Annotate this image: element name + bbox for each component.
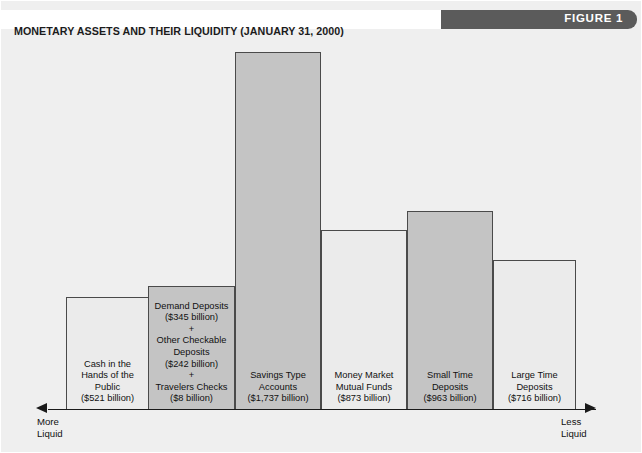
arrow-right-icon [585,403,596,413]
bar-label: Large Time Deposits ($716 billion) [505,370,564,409]
axis-label-more-liquid: More Liquid [37,416,63,439]
bar-label: Cash in the Hands of the Public ($521 bi… [78,359,137,409]
banner-bar [441,10,637,29]
axis-label-less-liquid: Less Liquid [561,416,587,439]
banner-bar-tail [441,10,481,29]
liquidity-axis-line [48,409,596,410]
figure-container: FIGURE 1 MONETARY ASSETS AND THEIR LIQUI… [0,0,642,453]
bar-label: Money Market Mutual Funds ($873 billion) [332,370,397,409]
bar-large-time-deposits: Large Time Deposits ($716 billion) [493,260,576,410]
bar-label: Small Time Deposits ($963 billion) [420,370,479,409]
bar-money-market-mutual-funds: Money Market Mutual Funds ($873 billion) [321,230,407,410]
bar-label: Savings Type Accounts ($1,737 billion) [245,370,312,409]
bar-cash-in-hands-of-public: Cash in the Hands of the Public ($521 bi… [66,297,149,410]
figure-number-label: FIGURE 1 [564,12,623,24]
bar-savings-type-accounts: Savings Type Accounts ($1,737 billion) [235,52,321,410]
bar-demand-deposits: Demand Deposits ($345 billion) + Other C… [148,286,235,410]
arrow-left-icon [36,403,47,413]
bar-chart-plot-area: Cash in the Hands of the Public ($521 bi… [1,35,642,453]
bar-label: Demand Deposits ($345 billion) + Other C… [152,301,232,409]
bar-small-time-deposits: Small Time Deposits ($963 billion) [407,211,493,410]
